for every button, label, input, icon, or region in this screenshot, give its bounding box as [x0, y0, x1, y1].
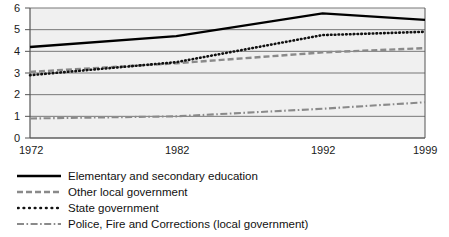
legend-label-other-local-government: Other local government [68, 186, 188, 199]
line-chart-figure: 6 5 4 3 2 1 0 1972 1982 1992 1999 Elemen… [0, 0, 449, 237]
chart-legend: Elementary and secondary education Other… [0, 168, 449, 237]
legend-item-state-government: State government [0, 200, 449, 216]
chart-svg [0, 0, 449, 150]
legend-label-police-fire-corrections: Police, Fire and Corrections (local gove… [68, 218, 308, 231]
y-tick-marks [25, 8, 30, 138]
x-tick-label-1972: 1972 [19, 145, 43, 156]
chart-plot-area: 6 5 4 3 2 1 0 1972 1982 1992 1999 [0, 0, 449, 150]
y-tick-label-4: 4 [2, 46, 20, 57]
legend-label-state-government: State government [68, 202, 159, 215]
x-tick-label-1982: 1982 [165, 145, 189, 156]
y-tick-label-6: 6 [2, 3, 20, 14]
legend-swatch-solid-line-icon [17, 169, 61, 183]
legend-swatch-dashdot-line-icon [17, 217, 61, 231]
legend-item-police-fire-corrections: Police, Fire and Corrections (local gove… [0, 216, 449, 232]
y-tick-label-5: 5 [2, 24, 20, 35]
x-tick-label-1999: 1999 [413, 145, 437, 156]
y-tick-label-3: 3 [2, 68, 20, 79]
legend-swatch-dashed-line-icon [17, 185, 61, 199]
legend-item-elementary-secondary-education: Elementary and secondary education [0, 168, 449, 184]
y-tick-label-0: 0 [2, 133, 20, 144]
legend-item-other-local-government: Other local government [0, 184, 449, 200]
y-tick-label-1: 1 [2, 111, 20, 122]
x-tick-label-1992: 1992 [311, 145, 335, 156]
legend-swatch-dotted-line-icon [17, 201, 61, 215]
y-tick-label-2: 2 [2, 89, 20, 100]
legend-label-elementary-secondary-education: Elementary and secondary education [68, 170, 258, 183]
